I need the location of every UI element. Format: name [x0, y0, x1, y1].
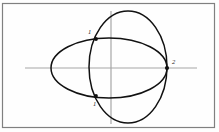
right-tangency-point	[165, 66, 169, 70]
lower-intersection-point	[94, 94, 98, 98]
upper-intersection-label: 1	[88, 28, 91, 35]
figure-container: 1 1 2	[0, 0, 219, 132]
tall-ellipse	[89, 11, 167, 123]
right-tangency-label: 2	[172, 58, 176, 65]
lower-intersection-label: 1	[93, 100, 96, 107]
figure-canvas: 1 1 2	[0, 0, 219, 132]
upper-intersection-point	[94, 37, 98, 41]
figure-border	[3, 4, 215, 128]
